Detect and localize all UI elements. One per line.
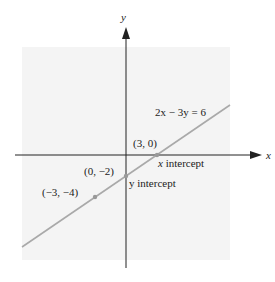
point-neg3-neg4: [93, 195, 97, 199]
x-intercept-coords: (3, 0): [133, 137, 157, 150]
y-axis-label: y: [120, 11, 126, 23]
y-axis-arrow-icon: [122, 27, 130, 39]
x-intercept-annotation: x intercept: [157, 157, 204, 169]
y-intercept-annotation: y intercept: [129, 177, 176, 189]
equation-label: 2x − 3y = 6: [155, 106, 206, 118]
x-intercept-text: intercept: [163, 157, 204, 169]
y-intercept-text: intercept: [135, 177, 176, 189]
x-axis-label: x: [265, 149, 271, 161]
y-intercept-coords: (0, −2): [84, 165, 114, 178]
x-axis-arrow-icon: [250, 151, 262, 159]
linear-equation-graph: x y 2x − 3y = 6 (3, 0) x intercept (0, −…: [0, 0, 275, 282]
point-neg3-neg4-coords: (−3, −4): [42, 186, 79, 199]
y-intercept-point: [124, 174, 128, 178]
